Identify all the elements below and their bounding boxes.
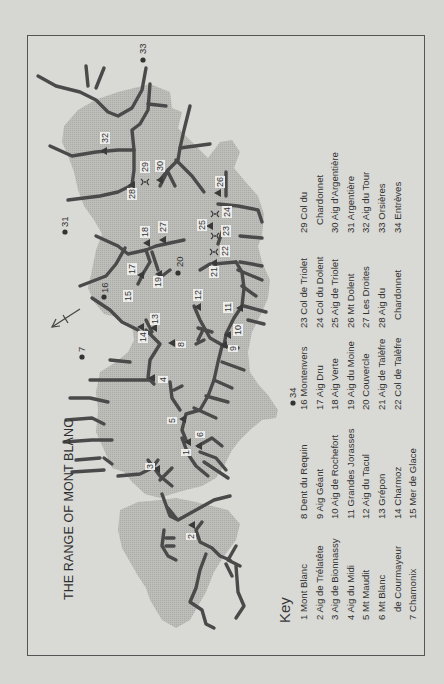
range-shaded-area: [62, 84, 278, 498]
marker-number-label: 28: [127, 188, 137, 200]
key-item: 16 Montenvers: [298, 347, 309, 410]
key-item: 32 Aig du Tour: [360, 172, 371, 233]
marker-number-label: 17: [127, 263, 137, 275]
marker-number-label: 18: [140, 226, 150, 238]
key-item: 21 Aig de Talèfre: [376, 339, 387, 410]
key-item: 22 Col de Talèfre: [392, 338, 403, 410]
town-dot-icon: [101, 294, 106, 299]
key-item: 9 Aig Géant: [314, 469, 325, 519]
key-item: 12 Aig du Tacul: [360, 454, 371, 519]
key-item: 1 Mont Blanc: [298, 564, 309, 620]
marker-number-label: 6: [195, 431, 205, 438]
marker-number-label: 30: [155, 160, 165, 172]
marker-number-label: 4: [158, 376, 168, 383]
key-item: 28 Aig du: [376, 288, 387, 328]
marker-number-label: 16: [100, 282, 110, 293]
key-item: 29 Col du: [298, 192, 309, 233]
marker-number-label: 13: [150, 313, 160, 325]
marker-number-label: 31: [60, 216, 70, 227]
key-item: 25 Aig de Triolet: [329, 259, 340, 328]
key-item: 23 Col de Triolet: [298, 258, 309, 328]
town-dot-icon: [140, 57, 145, 62]
key-item: 14 Charmoz: [392, 467, 403, 519]
key-item: 18 Aig Verte: [329, 358, 340, 410]
key-item: 26 Mt Dolent: [345, 274, 356, 328]
key-item: Chardonnet: [314, 175, 325, 233]
key-item: 2 Aig de Trélatête: [314, 545, 325, 620]
key-item: 13 Grépon: [376, 474, 387, 519]
key-item: 11 Grandes Jorasses: [345, 429, 356, 519]
marker-number-label: 9: [228, 345, 238, 352]
north-arrow-icon: [52, 309, 80, 327]
marker-number-label: 27: [158, 221, 168, 233]
key-item: 8 Dent du Requin: [298, 444, 309, 519]
marker-number-label: 15: [123, 290, 133, 302]
key-item: 31 Argentière: [345, 176, 356, 233]
marker-number-label: 3: [145, 463, 155, 470]
key-item: de Courmayeur: [392, 546, 403, 620]
key-heading: Key: [276, 597, 293, 623]
marker-number-label: 21: [209, 266, 219, 278]
town-dot-icon: [175, 270, 180, 275]
marker-number-label: 33: [138, 43, 148, 54]
key-item: 15 Mer de Glace: [407, 448, 418, 519]
marker-number-label: 7: [77, 347, 87, 352]
key-item: Chardonnet: [392, 270, 403, 328]
marker-number-label: 5: [167, 417, 177, 424]
key-item: 24 Col du Dolent: [314, 257, 325, 328]
map-title: THE RANGE OF MONT BLANC: [62, 419, 76, 600]
key-item: 6 Mt Blanc: [376, 575, 387, 620]
marker-number-label: 25: [197, 219, 207, 231]
key-item: 30 Aig d'Argentière: [329, 152, 340, 233]
key-item: 5 Mt Maudit: [360, 570, 371, 620]
key-item: 4 Aig du Midi: [345, 565, 356, 620]
key-item: 33 Orsières: [376, 183, 387, 233]
marker-number-label: 24: [222, 206, 232, 218]
marker-number-label: 20: [175, 256, 185, 267]
marker-number-label: 22: [220, 245, 230, 257]
marker-number-label: 32: [100, 132, 110, 144]
marker-number-label: 2: [186, 533, 196, 540]
marker-number-label: 19: [153, 276, 163, 288]
marker-number-label: 29: [140, 161, 150, 173]
key-item: 10 Aig de Rochefort: [329, 435, 340, 519]
marker-number-label: 8: [176, 341, 186, 348]
key-item: 3 Aig de Bionnassy: [329, 538, 340, 620]
key-item: 34 Entrèves: [392, 182, 403, 233]
marker-number-label: 23: [221, 225, 231, 237]
marker-number-label: 1: [181, 449, 191, 456]
town-dot-icon: [62, 229, 67, 234]
key-item: 7 Chamonix: [407, 569, 418, 620]
key-item: 20 Couvercle: [360, 353, 371, 410]
marker-number-label: 14: [138, 331, 148, 343]
marker-number-label: 10: [233, 324, 243, 336]
scanned-page: THE RANGE OF MONT BLANC Key 1 Mont Blanc…: [0, 0, 444, 684]
key-item: 27 Les Droites: [360, 266, 371, 328]
key-item: 17 Aig Dru: [314, 365, 325, 410]
town-dot-icon: [79, 354, 84, 359]
marker-number-label: 11: [223, 302, 233, 313]
key-item: 19 Aig du Moine: [345, 341, 356, 410]
marker-number-label: 34: [288, 387, 298, 398]
town-dot-icon: [290, 400, 295, 405]
marker-number-label: 12: [193, 289, 203, 301]
marker-number-label: 26: [215, 176, 225, 188]
